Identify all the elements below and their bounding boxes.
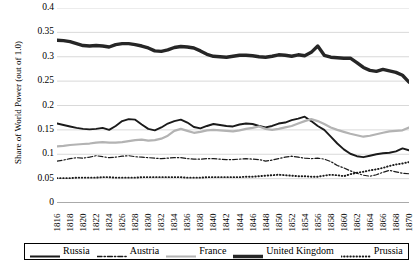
x-tick-label: 1858 (326, 206, 335, 240)
y-tick-label: 0.1 (8, 149, 54, 159)
x-tick-label: 1852 (287, 206, 296, 240)
legend-swatch-icon (233, 247, 263, 256)
chart-legend: RussiaAustriaFranceUnited KingdomPrussia (24, 243, 409, 260)
x-tick-label: 1844 (235, 206, 244, 240)
legend-line-icon (97, 252, 127, 261)
y-tick-label: 0.4 (8, 3, 54, 13)
y-tick-label: 0.3 (8, 52, 54, 62)
y-tick-label: 0.05 (8, 174, 54, 184)
y-tick-label: 0.25 (8, 76, 54, 86)
y-tick-label: 0.2 (8, 101, 54, 111)
legend-line-icon (341, 252, 371, 261)
series-line-france (57, 119, 409, 146)
series-line-prussia (57, 162, 409, 178)
x-tick-label: 1840 (209, 206, 218, 240)
x-tick-label: 1836 (183, 206, 192, 240)
x-tick-label: 1846 (248, 206, 257, 240)
x-tick-label: 1854 (300, 206, 309, 240)
legend-line-icon (166, 252, 196, 261)
x-tick-label: 1862 (352, 206, 361, 240)
x-tick-label: 1856 (313, 206, 322, 240)
x-tick-label: 1842 (222, 206, 231, 240)
legend-swatch-icon (97, 247, 127, 256)
x-tick-label: 1816 (53, 206, 62, 240)
legend-swatch-icon (341, 247, 371, 256)
legend-item-united-kingdom[interactable]: United Kingdom (233, 246, 334, 256)
x-tick-label: 1868 (391, 206, 400, 240)
series-line-united-kingdom (57, 40, 409, 82)
x-tick-label: 1864 (365, 206, 374, 240)
legend-item-prussia[interactable]: Prussia (341, 246, 403, 256)
legend-swatch-icon (30, 247, 60, 256)
series-line-russia (57, 117, 409, 157)
x-tick-label: 1822 (92, 206, 101, 240)
legend-item-russia[interactable]: Russia (30, 246, 90, 256)
chart-svg (57, 8, 409, 203)
x-tick-label: 1848 (261, 206, 270, 240)
y-axis-tick-labels: 00.050.10.150.20.250.30.350.4 (0, 0, 54, 215)
x-tick-label: 1830 (144, 206, 153, 240)
y-tick-label: 0 (8, 198, 54, 208)
y-tick-label: 0.15 (8, 125, 54, 135)
x-tick-label: 1838 (196, 206, 205, 240)
y-tick-label: 0.35 (8, 27, 54, 37)
x-tick-label: 1860 (339, 206, 348, 240)
x-tick-label: 1824 (105, 206, 114, 240)
x-tick-label: 1866 (378, 206, 387, 240)
legend-label: United Kingdom (266, 246, 334, 256)
x-tick-label: 1834 (170, 206, 179, 240)
x-tick-label: 1870 (405, 206, 414, 240)
x-tick-label: 1850 (274, 206, 283, 240)
x-axis-tick-labels: 1816181818201822182418261828183018321834… (57, 205, 409, 239)
legend-label: Russia (63, 246, 90, 256)
chart-container: Share of World Power (out of 1.0) 00.050… (0, 0, 417, 269)
x-tick-label: 1828 (131, 206, 140, 240)
x-tick-label: 1820 (79, 206, 88, 240)
x-tick-label: 1832 (157, 206, 166, 240)
x-tick-label: 1818 (66, 206, 75, 240)
legend-item-france[interactable]: France (166, 246, 226, 256)
legend-line-icon (233, 252, 263, 261)
x-tick-label: 1826 (118, 206, 127, 240)
legend-label: France (199, 246, 226, 256)
legend-label: Austria (130, 246, 159, 256)
plot-area (57, 8, 409, 203)
legend-line-icon (30, 252, 60, 261)
legend-item-austria[interactable]: Austria (97, 246, 159, 256)
legend-label: Prussia (374, 246, 403, 256)
legend-swatch-icon (166, 247, 196, 256)
